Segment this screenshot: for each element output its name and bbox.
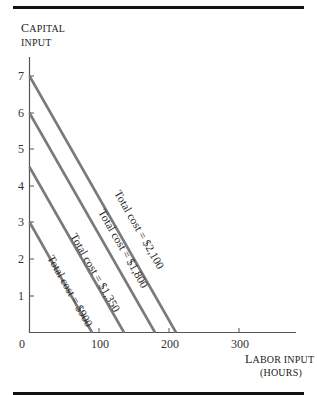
x-axis-title-line2: (HOURS) (260, 367, 302, 378)
x-axis-title-cap: L (245, 352, 253, 366)
svg-text:3: 3 (18, 215, 24, 229)
y-ticks (30, 76, 35, 296)
isocost-labels: Total cost = $900 Total cost = $1,350 To… (45, 188, 167, 329)
x-tick-labels: 0 100 200 300 (19, 337, 249, 351)
svg-text:2: 2 (18, 252, 24, 266)
y-tick-labels: 1 2 3 4 5 6 7 (18, 69, 24, 303)
svg-text:5: 5 (18, 142, 24, 156)
svg-text:1: 1 (18, 289, 24, 303)
svg-text:0: 0 (19, 337, 25, 351)
svg-text:200: 200 (161, 337, 179, 351)
chart-plot: 1 2 3 4 5 6 7 0 100 200 300 Total cost =… (0, 0, 317, 395)
x-axis-title-rest: ABOR INPUT (253, 354, 315, 365)
x-ticks (99, 328, 239, 333)
svg-text:6: 6 (18, 106, 24, 120)
svg-text:300: 300 (231, 337, 249, 351)
svg-text:7: 7 (18, 69, 24, 83)
svg-text:4: 4 (18, 179, 24, 193)
x-axis-title: LABOR INPUT (245, 352, 314, 367)
svg-text:100: 100 (91, 337, 109, 351)
